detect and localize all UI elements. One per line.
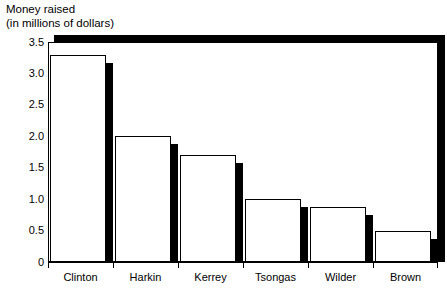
bar-body xyxy=(375,231,431,262)
bars-layer xyxy=(48,42,438,262)
y-axis-tick-label: 2.0 xyxy=(29,131,48,142)
bar-brown[interactable] xyxy=(375,231,438,262)
x-axis-tick-mark xyxy=(48,262,49,268)
bar-tsongas[interactable] xyxy=(245,199,308,262)
bar-wilder[interactable] xyxy=(310,207,373,262)
y-axis-tick-label: 1.5 xyxy=(29,162,48,173)
x-axis-label-brown: Brown xyxy=(390,271,421,284)
x-axis-label-kerrey: Kerrey xyxy=(194,271,226,284)
chart-title-line-1: Money raised xyxy=(6,2,114,16)
x-axis-tick-mark xyxy=(308,262,309,268)
frame-shadow-right xyxy=(438,35,445,262)
x-axis-label-tsongas: Tsongas xyxy=(255,271,296,284)
y-axis-tick-label: 1.0 xyxy=(29,194,48,205)
bar-body xyxy=(310,207,366,262)
bar-shadow xyxy=(106,63,113,262)
x-axis-label-wilder: Wilder xyxy=(325,271,356,284)
chart-title-line-2: (in millions of dollars) xyxy=(6,16,114,30)
y-axis: 00.51.01.52.02.53.03.5 xyxy=(0,36,48,270)
y-axis-tick-label: 0 xyxy=(38,257,48,268)
y-axis-tick-label: 3.5 xyxy=(29,37,48,48)
bar-body xyxy=(50,55,106,262)
chart-title: Money raised (in millions of dollars) xyxy=(6,2,114,30)
plot-area xyxy=(48,42,438,262)
bar-harkin[interactable] xyxy=(115,136,178,262)
y-axis-tick-label: 2.5 xyxy=(29,99,48,110)
bar-shadow xyxy=(236,163,243,262)
x-axis-tick-mark xyxy=(243,262,244,268)
bar-shadow xyxy=(301,207,308,262)
x-axis-label-clinton: Clinton xyxy=(63,271,97,284)
bar-shadow xyxy=(366,215,373,262)
x-axis: ClintonHarkinKerreyTsongasWilderBrown xyxy=(48,262,445,288)
x-axis-tick-mark xyxy=(178,262,179,268)
x-axis-tick-mark xyxy=(437,262,438,268)
x-axis-tick-mark xyxy=(113,262,114,268)
bar-body xyxy=(115,136,171,262)
y-axis-tick-label: 3.0 xyxy=(29,68,48,79)
x-axis-tick-mark xyxy=(373,262,374,268)
frame-shadow-top xyxy=(54,35,445,42)
bar-clinton[interactable] xyxy=(50,55,113,262)
bar-body xyxy=(245,199,301,262)
bar-shadow xyxy=(431,239,438,262)
bar-body xyxy=(180,155,236,262)
x-axis-label-harkin: Harkin xyxy=(130,271,162,284)
bar-shadow xyxy=(171,144,178,262)
y-axis-tick-label: 0.5 xyxy=(29,225,48,236)
bar-kerrey[interactable] xyxy=(180,155,243,262)
bar-chart: Money raised (in millions of dollars) 00… xyxy=(0,0,447,288)
